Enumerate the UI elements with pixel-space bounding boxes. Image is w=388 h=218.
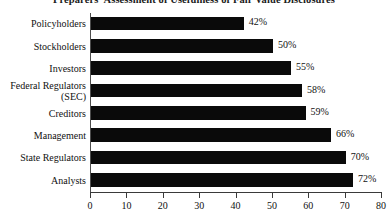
x-tick-label: 70 [330,200,360,212]
x-tick [381,193,382,198]
x-tick-label: 80 [366,200,388,212]
bar-row: 55% [90,58,381,79]
category-label: Stockholders [0,41,86,52]
category-label: Management [0,130,86,141]
category-label: State Regulators [0,152,86,163]
bar [91,151,346,165]
x-tick-label: 10 [111,200,141,212]
category-label: Investors [0,63,86,74]
x-tick [236,193,237,198]
x-tick [90,193,91,198]
bar [91,106,306,120]
category-label: Policyholders [0,18,86,29]
x-tick [199,193,200,198]
bar-row: 59% [90,103,381,124]
bar [91,17,244,31]
bar-value-label: 70% [346,150,369,164]
x-tick [345,193,346,198]
plot-area: 42%50%55%58%59%66%70%72% [90,13,381,192]
bar-value-label: 55% [291,60,314,74]
category-label: Creditors [0,108,86,119]
bar-chart: Preparers' Assessment of Usefulness of F… [0,0,388,218]
bar-value-label: 59% [306,105,329,119]
bar-value-label: 72% [353,172,376,186]
x-tick-label: 60 [293,200,323,212]
bar [91,173,353,187]
category-label: Analysts [0,175,86,186]
bar [91,61,291,75]
x-tick [308,193,309,198]
chart-title: Preparers' Assessment of Usefulness of F… [0,0,388,5]
bar-row: 70% [90,147,381,168]
bar [91,84,302,98]
bar-row: 66% [90,125,381,146]
bar-row: 58% [90,80,381,101]
x-tick [126,193,127,198]
bar-row: 72% [90,170,381,191]
bar-value-label: 42% [244,15,267,29]
x-tick [163,193,164,198]
bar [91,39,273,53]
x-tick-label: 50 [257,200,287,212]
x-tick [272,193,273,198]
bar-value-label: 66% [331,127,354,141]
x-tick-label: 40 [221,200,251,212]
bar-row: 42% [90,13,381,34]
x-tick-label: 0 [75,200,105,212]
bar-value-label: 58% [302,83,325,97]
x-tick-label: 20 [148,200,178,212]
bar-row: 50% [90,35,381,56]
bar-value-label: 50% [273,38,296,52]
category-label: Federal Regulators (SEC) [0,80,86,102]
x-tick-label: 30 [184,200,214,212]
bar [91,128,331,142]
